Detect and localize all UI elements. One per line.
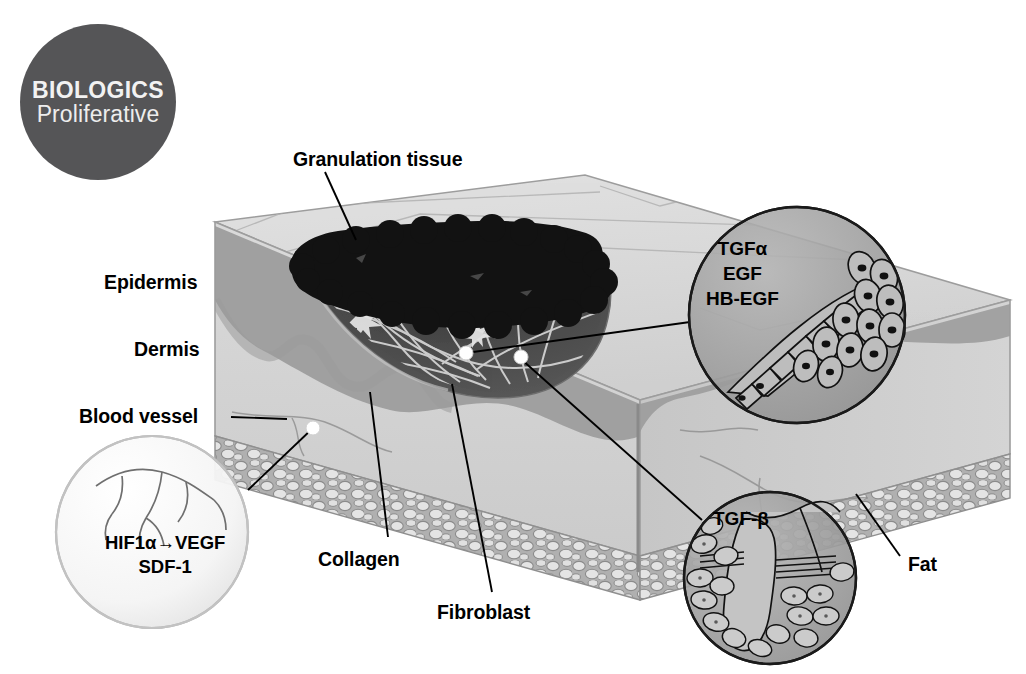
callout-text-tgfb: TGF-β — [713, 508, 769, 530]
callout-tgfa-line3: HB-EGF — [706, 286, 779, 311]
diagram-canvas: BIOLOGICS Proliferative Granulation tiss… — [0, 0, 1026, 674]
callout-tgfa-line2: EGF — [706, 261, 779, 286]
label-granulation-tissue: Granulation tissue — [293, 148, 462, 171]
badge-title: BIOLOGICS — [32, 78, 164, 102]
label-blood-vessel: Blood vessel — [79, 405, 198, 428]
callout-tgfa-line1: TGFα — [706, 236, 779, 261]
biologics-phase-badge: BIOLOGICS Proliferative — [20, 24, 176, 180]
label-dermis: Dermis — [134, 338, 200, 361]
label-fibroblast: Fibroblast — [437, 601, 530, 624]
callout-hif-line1: HIF1α→VEGF — [105, 531, 225, 555]
label-fat: Fat — [908, 553, 937, 576]
callout-text-tgfa: TGFα EGF HB-EGF — [706, 236, 779, 311]
callout-text-hif: HIF1α→VEGF SDF-1 — [105, 531, 225, 579]
label-epidermis: Epidermis — [104, 271, 197, 294]
badge-subtitle: Proliferative — [37, 102, 160, 126]
label-collagen: Collagen — [318, 548, 400, 571]
callout-circle-tgfb — [684, 492, 856, 664]
callout-hif-line2: SDF-1 — [105, 555, 225, 579]
